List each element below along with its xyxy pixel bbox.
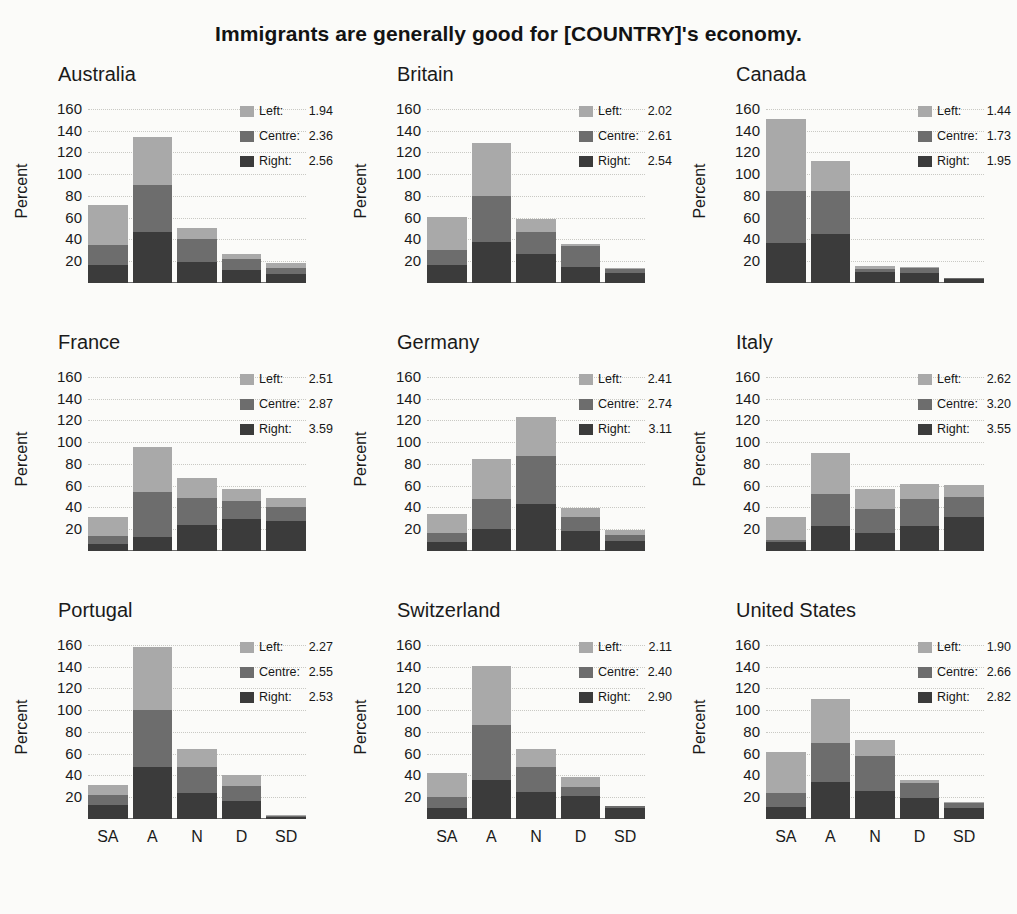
legend-item-left: Left:1.44 — [918, 104, 1011, 118]
bar-segment-right — [177, 793, 217, 819]
stacked-bar — [177, 478, 217, 551]
y-axis-tick-label: 40 — [65, 766, 82, 783]
legend-label: Right: — [937, 690, 983, 704]
bar-segment-centre — [811, 743, 851, 782]
legend-label: Left: — [937, 640, 983, 654]
legend-label: Centre: — [937, 129, 983, 143]
y-axis-tick-label: 120 — [57, 411, 82, 428]
legend-swatch-left-icon — [240, 374, 254, 385]
y-axis-tick-label: 40 — [65, 230, 82, 247]
y-axis-tick-label: 80 — [743, 723, 760, 740]
y-axis-tick-label: 120 — [396, 143, 421, 160]
bar-segment-right — [605, 541, 645, 551]
legend-value: 3.20 — [983, 397, 1011, 411]
legend-swatch-right-icon — [579, 692, 593, 703]
legend-label: Left: — [598, 372, 644, 386]
y-axis-tick-label: 40 — [65, 498, 82, 515]
y-axis-tick-label: 160 — [735, 636, 760, 653]
stacked-bar — [177, 228, 217, 283]
bar-segment-centre — [516, 456, 556, 504]
bar-segment-right — [605, 273, 645, 283]
y-axis-tick-label: 100 — [735, 433, 760, 450]
bar-segment-left — [855, 489, 895, 509]
stacked-bar — [133, 137, 173, 283]
bar-segment-left — [177, 749, 217, 766]
bar-segment-right — [855, 272, 895, 283]
y-axis-label: Percent — [352, 163, 370, 218]
y-axis-tick-label: 100 — [57, 433, 82, 450]
bar-segment-centre — [900, 499, 940, 526]
y-axis-tick-label: 80 — [65, 455, 82, 472]
stacked-bar — [133, 647, 173, 819]
y-axis-tick-label: 40 — [743, 230, 760, 247]
legend-swatch-centre-icon — [240, 667, 254, 678]
bar-segment-right — [427, 542, 467, 551]
x-axis-tick-label: A — [133, 828, 173, 846]
stacked-bar — [266, 815, 306, 819]
y-axis-tick-label: 160 — [57, 100, 82, 117]
y-axis-tick-label: 160 — [57, 368, 82, 385]
bar-segment-left — [177, 228, 217, 240]
legend-swatch-centre-icon — [579, 399, 593, 410]
legend-value: 2.51 — [305, 372, 333, 386]
x-axis-labels: SAANDSD — [766, 828, 984, 846]
legend-value: 3.59 — [305, 422, 333, 436]
x-axis-tick-label: SD — [944, 828, 984, 846]
bar-segment-centre — [427, 797, 467, 808]
y-axis-tick-label: 120 — [735, 679, 760, 696]
y-axis-tick-label: 80 — [404, 455, 421, 472]
stacked-bar — [944, 485, 984, 551]
y-axis-label: Percent — [691, 431, 709, 486]
stacked-bar — [605, 530, 645, 551]
legend-item-centre: Centre:2.66 — [918, 665, 1011, 679]
stacked-bar — [944, 802, 984, 819]
bar-segment-left — [427, 217, 467, 251]
bar-segment-left — [811, 699, 851, 743]
legend-swatch-centre-icon — [918, 131, 932, 142]
bar-segment-left — [561, 508, 601, 518]
stacked-bar — [811, 699, 851, 819]
legend-label: Right: — [259, 422, 305, 436]
legend-label: Right: — [598, 690, 644, 704]
y-axis-tick-label: 20 — [404, 788, 421, 805]
legend-item-right: Right:3.55 — [918, 422, 1011, 436]
bar-segment-left — [266, 498, 306, 508]
legend: Left:2.41Centre:2.74Right:3.11 — [579, 372, 672, 436]
legend-item-left: Left:1.94 — [240, 104, 333, 118]
bar-segment-left — [766, 119, 806, 191]
y-axis-tick-label: 80 — [404, 723, 421, 740]
panel-title: United States — [736, 599, 856, 622]
bar-segment-centre — [472, 725, 512, 779]
y-axis-tick-label: 160 — [396, 100, 421, 117]
legend-swatch-centre-icon — [579, 131, 593, 142]
legend-value: 2.62 — [983, 372, 1011, 386]
stacked-bar — [266, 498, 306, 551]
bar-segment-centre — [516, 232, 556, 254]
y-axis-tick-label: 40 — [743, 766, 760, 783]
legend: Left:1.90Centre:2.66Right:2.82 — [918, 640, 1011, 704]
bar-segment-right — [766, 542, 806, 551]
bar-segment-centre — [222, 786, 262, 800]
bar-segment-centre — [561, 787, 601, 796]
legend-label: Centre: — [598, 665, 644, 679]
legend-item-centre: Centre:2.55 — [240, 665, 333, 679]
bar-segment-right — [472, 242, 512, 283]
x-axis-labels: SAANDSD — [427, 828, 645, 846]
y-axis-label: Percent — [13, 699, 31, 754]
legend-value: 3.55 — [983, 422, 1011, 436]
stacked-bar — [472, 666, 512, 819]
legend-value: 1.95 — [983, 154, 1011, 168]
y-axis-label: Percent — [691, 163, 709, 218]
panel-grid: AustraliaPercent20406080100120140160Left… — [0, 60, 1017, 914]
y-axis-tick-label: 60 — [65, 745, 82, 762]
bar-segment-left — [88, 785, 128, 795]
legend-value: 2.56 — [305, 154, 333, 168]
y-axis-label: Percent — [13, 431, 31, 486]
y-axis-tick-label: 40 — [404, 498, 421, 515]
bar-segment-left — [133, 447, 173, 493]
y-axis-tick-label: 80 — [65, 187, 82, 204]
legend-label: Right: — [598, 422, 644, 436]
stacked-bar — [266, 263, 306, 283]
legend-value: 2.41 — [644, 372, 672, 386]
legend-value: 1.90 — [983, 640, 1011, 654]
